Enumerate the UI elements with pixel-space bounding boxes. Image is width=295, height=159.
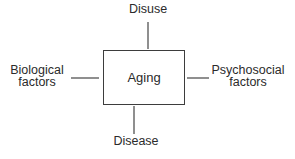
label-disuse: Disuse [129, 3, 167, 15]
label-biological-factors: Biological factors [0, 64, 74, 88]
connector-top-line [147, 22, 149, 49]
connector-left-line [71, 77, 99, 79]
connector-bottom-line [133, 106, 135, 134]
aging-box-label: Aging [127, 70, 160, 85]
label-psychosocial-factors: Psychosocial factors [207, 64, 289, 88]
label-disease: Disease [113, 135, 158, 147]
connector-right-line [187, 77, 209, 79]
aging-factors-diagram: Disuse Biological factors Aging Psychoso… [0, 0, 295, 159]
aging-box: Aging [103, 50, 185, 105]
